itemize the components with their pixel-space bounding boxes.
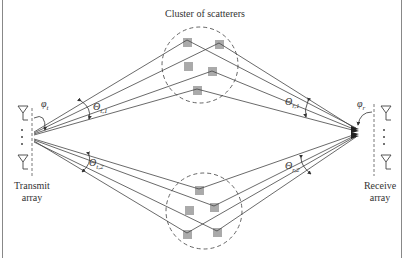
receiver-arrowheads (351, 126, 359, 139)
antenna-icon (381, 155, 391, 169)
phi-r-label: φr (357, 98, 365, 112)
mimo-cluster-diagram: Cluster of scatterers Transmit array Rec… (0, 0, 408, 258)
antenna-icon (18, 106, 28, 120)
theta-r1-label: Θr,1 (285, 96, 299, 110)
transmit-array-label: Transmit array (6, 180, 58, 204)
receive-label-line2: array (354, 192, 406, 204)
phi-r-arc (358, 112, 372, 125)
theta-r2-label: Θr,2 (285, 160, 299, 174)
receive-array (374, 104, 391, 176)
theta-t2-label: Θt,2 (89, 157, 103, 171)
transmit-label-line2: array (6, 192, 58, 204)
transmit-label-line1: Transmit (6, 180, 58, 192)
theta-r1-arc (305, 101, 308, 117)
lower-scatterer-cluster (166, 173, 242, 249)
theta-t1-arc (81, 101, 90, 119)
cluster-title: Cluster of scatterers (150, 8, 260, 20)
lower-propagation-paths (34, 134, 356, 233)
receive-array-label: Receive array (354, 180, 406, 204)
transmit-array (18, 106, 32, 176)
antenna-icon (381, 106, 391, 120)
phi-t-label: φt (41, 98, 49, 112)
receive-label-line1: Receive (354, 180, 406, 192)
theta-t1-label: Θt,1 (93, 101, 107, 115)
antenna-icon (18, 155, 28, 169)
diagram-canvas (0, 0, 408, 258)
